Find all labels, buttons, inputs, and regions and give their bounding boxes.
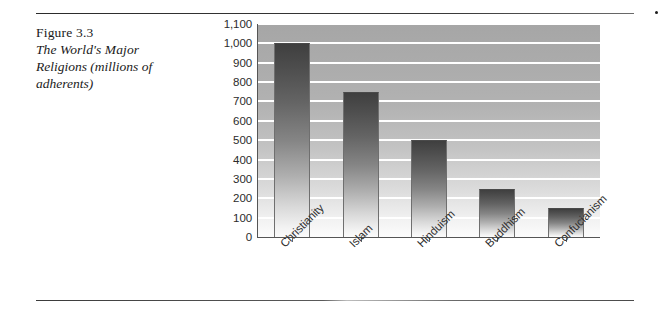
y-axis-tick-label: 400 [233, 154, 252, 166]
y-axis-tick-label: 600 [233, 115, 252, 127]
y-axis-line [257, 24, 258, 237]
y-axis-tick-labels: 1,1001,0009008007006005004003002001000 [200, 24, 252, 237]
y-axis-tick-label: 300 [233, 173, 252, 185]
x-axis-category-labels: ChristianityIslamHinduismBuddhismConfuci… [258, 237, 600, 307]
y-axis-tick-label: 100 [233, 212, 252, 224]
y-axis-tick-label: 700 [233, 95, 252, 107]
figure-number: Figure 3.3 [36, 24, 211, 41]
bar [343, 92, 379, 237]
y-axis-tick-label: 1,000 [224, 37, 252, 49]
figure-title-line-1: The World's Major [36, 41, 211, 58]
figure-title-line-2: Religions (millions of [36, 58, 211, 75]
top-rule-end-dot [655, 11, 658, 14]
y-axis-tick-label: 500 [233, 134, 252, 146]
y-axis-tick-label: 200 [233, 192, 252, 204]
bar [274, 43, 310, 237]
figure-page: Figure 3.3 The World's Major Religions (… [0, 0, 668, 311]
bar-series [258, 24, 600, 237]
figure-title-line-3: adherents) [36, 75, 211, 92]
y-axis-tick-label: 0 [246, 231, 252, 243]
y-axis-tick-label: 800 [233, 76, 252, 88]
top-horizontal-rule [36, 13, 634, 14]
y-axis-tick-label: 900 [233, 57, 252, 69]
figure-caption: Figure 3.3 The World's Major Religions (… [36, 24, 211, 92]
bar-chart: 1,1001,0009008007006005004003002001000 C… [258, 24, 600, 237]
bottom-horizontal-rule [36, 300, 634, 301]
y-axis-tick-label: 1,100 [224, 18, 252, 30]
